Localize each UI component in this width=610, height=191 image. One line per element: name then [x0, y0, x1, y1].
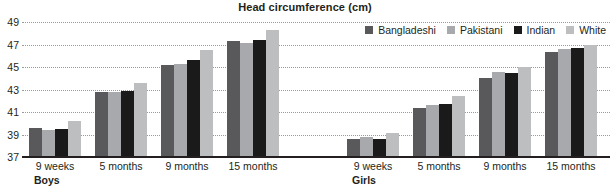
x-axis-line — [22, 156, 610, 158]
bar-group — [224, 22, 282, 157]
legend-swatch-icon — [566, 26, 574, 34]
bar — [29, 128, 42, 157]
bar-group — [158, 22, 216, 157]
legend-label: Bangladeshi — [378, 25, 436, 36]
bar-group — [410, 22, 468, 157]
bar-group — [92, 22, 150, 157]
legend-label: Indian — [527, 25, 556, 36]
y-axis-tick-label: 37 — [0, 152, 19, 163]
bar — [253, 40, 266, 157]
bar — [360, 137, 373, 157]
bar-group-bars — [344, 22, 402, 157]
legend-item[interactable]: Bangladeshi — [365, 25, 436, 36]
bar-group — [26, 22, 84, 157]
x-axis-tick-label: 5 months — [404, 160, 474, 172]
panel-boys — [22, 22, 292, 157]
bar-group-bars — [158, 22, 216, 157]
y-axis-tick-label: 47 — [0, 40, 19, 51]
panel-label-girls: Girls — [352, 174, 376, 186]
bar — [492, 72, 505, 158]
bar — [108, 92, 121, 157]
legend-swatch-icon — [514, 26, 522, 34]
chart-legend: BangladeshiPakistaniIndianWhite — [365, 25, 606, 36]
bar-group — [476, 22, 534, 157]
x-axis-tick-label: 9 months — [470, 160, 540, 172]
chart-root: Head circumference (cm) 37394143454749 9… — [0, 0, 610, 191]
bar — [174, 64, 187, 157]
y-axis-tick-label: 43 — [0, 85, 19, 96]
bar — [545, 52, 558, 157]
legend-label: White — [579, 25, 606, 36]
bar-group-bars — [476, 22, 534, 157]
x-axis-tick-label: 15 months — [218, 160, 288, 172]
legend-item[interactable]: Pakistani — [447, 25, 503, 36]
bar — [413, 108, 426, 158]
bar — [161, 65, 174, 157]
bar-group-bars — [410, 22, 468, 157]
bar — [42, 130, 55, 157]
bar-group — [542, 22, 600, 157]
plot-area — [22, 22, 610, 157]
bar — [571, 48, 584, 157]
bar — [121, 91, 134, 157]
x-axis-tick-label: 15 months — [536, 160, 606, 172]
bar — [426, 105, 439, 157]
panel-girls — [340, 22, 610, 157]
bar — [240, 43, 253, 157]
bar — [347, 139, 360, 157]
bar-group-bars — [542, 22, 600, 157]
bar — [187, 60, 200, 157]
y-axis-tick-label: 49 — [0, 17, 19, 28]
x-axis-tick-label: 9 months — [152, 160, 222, 172]
panel-label-boys: Boys — [34, 174, 60, 186]
x-axis-tick-label: 5 months — [86, 160, 156, 172]
bar-group — [344, 22, 402, 157]
bar — [452, 96, 465, 157]
bar — [439, 104, 452, 157]
bar — [505, 73, 518, 157]
y-axis-tick-label: 39 — [0, 130, 19, 141]
bar — [558, 49, 571, 157]
bar-group-bars — [224, 22, 282, 157]
bar — [55, 129, 68, 157]
legend-swatch-icon — [447, 26, 455, 34]
legend-item[interactable]: White — [566, 25, 606, 36]
bar — [266, 30, 279, 157]
x-axis-tick-label: 9 weeks — [20, 160, 90, 172]
bar — [227, 41, 240, 157]
bar-group-bars — [26, 22, 84, 157]
bar — [200, 50, 213, 157]
bar — [386, 133, 399, 157]
y-axis-tick-label: 45 — [0, 62, 19, 73]
bar — [134, 83, 147, 157]
y-axis-tick-label: 41 — [0, 107, 19, 118]
bar — [95, 92, 108, 157]
bar — [68, 121, 81, 157]
bar — [584, 45, 597, 158]
legend-item[interactable]: Indian — [514, 25, 556, 36]
bar — [518, 67, 531, 157]
bar — [373, 139, 386, 157]
chart-title: Head circumference (cm) — [0, 1, 610, 13]
legend-swatch-icon — [365, 26, 373, 34]
x-axis-labels: 9 weeks5 months9 months15 months9 weeks5… — [22, 160, 610, 174]
bar — [479, 78, 492, 157]
legend-label: Pakistani — [460, 25, 503, 36]
bar-group-bars — [92, 22, 150, 157]
x-axis-tick-label: 9 weeks — [338, 160, 408, 172]
